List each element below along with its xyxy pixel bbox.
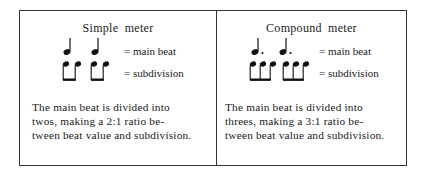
simple-subdivision-label: = subdivision [124, 67, 184, 79]
simple-meter-description: The main beat is divided into twos, maki… [20, 100, 216, 142]
eighth-note-triplets-icon [249, 60, 319, 86]
eighth-note-pairs-icon [62, 60, 122, 86]
simple-main-beat-label: = main beat [124, 45, 176, 57]
comparison-table: Simple meter = main beat = subdivision [19, 10, 407, 166]
compound-meter-title: Compound meter [217, 21, 406, 36]
simple-meter-panel: Simple meter = main beat = subdivision [20, 11, 216, 165]
compound-subdivision-label: = subdivision [319, 67, 379, 79]
compound-meter-description: The main beat is divided into threes, ma… [217, 100, 406, 142]
compound-meter-panel: Compound meter = ma [217, 11, 406, 165]
compound-main-beat-label: = main beat [319, 45, 371, 57]
simple-meter-title: Simple meter [20, 21, 216, 36]
